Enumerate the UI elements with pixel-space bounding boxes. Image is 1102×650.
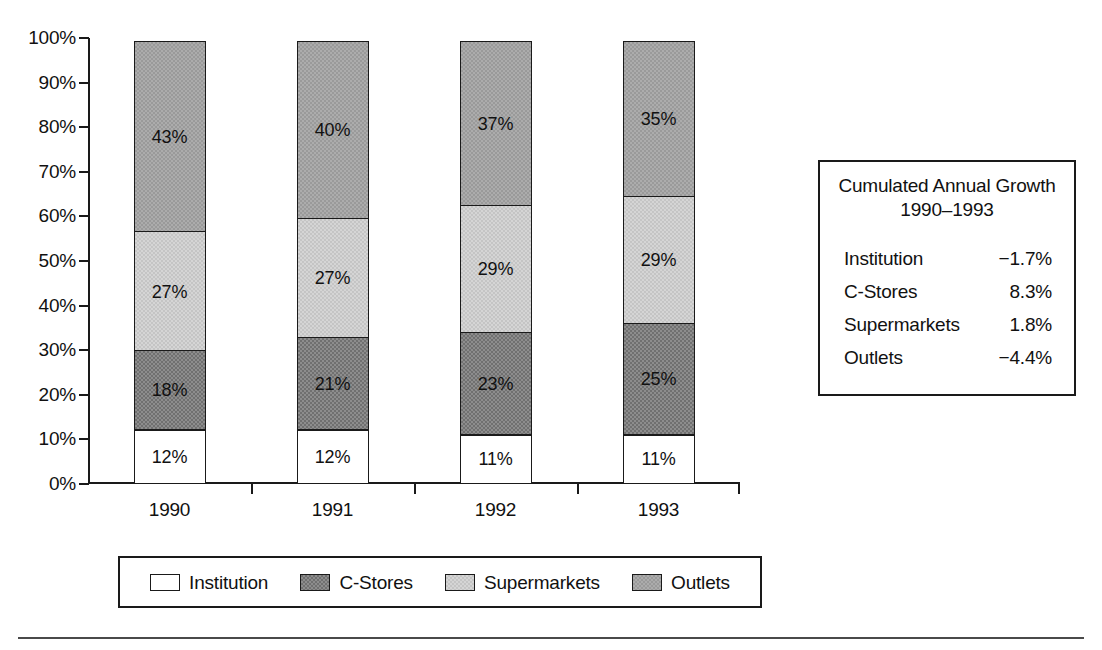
x-axis-label-1993: 1993 bbox=[577, 500, 740, 519]
y-axis-tick-label: 70% bbox=[14, 162, 76, 181]
growth-row-value: −1.7% bbox=[999, 242, 1052, 275]
bar-segment-label: 43% bbox=[152, 128, 187, 146]
y-axis-tick bbox=[79, 260, 89, 262]
bar-segment-label: 27% bbox=[315, 269, 350, 287]
y-axis-tick bbox=[79, 438, 89, 440]
legend-item-label: Institution bbox=[189, 573, 268, 592]
growth-table-title-line1: Cumulated Annual Growth bbox=[820, 174, 1074, 198]
y-axis-tick bbox=[79, 394, 89, 396]
y-axis-tick-label: 90% bbox=[14, 73, 76, 92]
y-axis-tick bbox=[79, 126, 89, 128]
bar-segment-label: 29% bbox=[478, 260, 513, 278]
bar-segment[interactable]: 27% bbox=[297, 218, 369, 338]
legend-item-label: Outlets bbox=[671, 573, 730, 592]
bar-segment-label: 27% bbox=[152, 283, 187, 301]
growth-table-title-line2: 1990–1993 bbox=[820, 198, 1074, 222]
y-axis-tick-label: 60% bbox=[14, 206, 76, 225]
plot-area: 0%10%20%30%40%50%60%70%80%90%100% 43%27%… bbox=[88, 38, 740, 484]
bar-1991[interactable]: 40%27%21%12% bbox=[297, 43, 369, 484]
growth-table-rows: Institution−1.7%C-Stores8.3%Supermarkets… bbox=[820, 242, 1074, 374]
bar-segment[interactable]: 25% bbox=[623, 323, 695, 435]
x-axis-tick bbox=[414, 484, 416, 494]
bar-segment[interactable]: 11% bbox=[623, 435, 695, 484]
bar-segment-label: 11% bbox=[478, 450, 512, 468]
bar-segment-label: 21% bbox=[315, 375, 350, 393]
bar-1990[interactable]: 43%27%18%12% bbox=[134, 43, 206, 484]
bar-segment[interactable]: 43% bbox=[134, 41, 206, 233]
legend-swatch-icon bbox=[632, 574, 662, 591]
y-axis-tick-label: 0% bbox=[14, 474, 76, 493]
bar-segment-label: 37% bbox=[478, 115, 513, 133]
bar-segment-label: 11% bbox=[641, 450, 675, 468]
y-axis-tick bbox=[79, 305, 89, 307]
bar-segment[interactable]: 23% bbox=[460, 332, 532, 435]
bar-segment-label: 40% bbox=[315, 121, 350, 139]
bar-segment[interactable]: 11% bbox=[460, 435, 532, 484]
growth-row-value: 1.8% bbox=[1009, 308, 1052, 341]
legend-item-label: C-Stores bbox=[339, 573, 412, 592]
bar-segment[interactable]: 18% bbox=[134, 350, 206, 430]
growth-table-row: Institution−1.7% bbox=[844, 242, 1052, 275]
growth-table-row: C-Stores8.3% bbox=[844, 275, 1052, 308]
bar-segment[interactable]: 12% bbox=[134, 430, 206, 484]
growth-table-title: Cumulated Annual Growth 1990–1993 bbox=[820, 174, 1074, 222]
legend-item-institution[interactable]: Institution bbox=[150, 573, 268, 592]
bar-1992[interactable]: 37%29%23%11% bbox=[460, 43, 532, 484]
bar-segment[interactable]: 27% bbox=[134, 231, 206, 351]
legend-item-label: Supermarkets bbox=[484, 573, 600, 592]
x-axis-tick bbox=[577, 484, 579, 494]
bar-segment[interactable]: 29% bbox=[623, 196, 695, 325]
bar-segment-label: 23% bbox=[478, 375, 513, 393]
y-axis-tick-label: 30% bbox=[14, 340, 76, 359]
growth-row-label: C-Stores bbox=[844, 275, 917, 308]
y-axis-tick-label: 10% bbox=[14, 429, 76, 448]
growth-row-label: Supermarkets bbox=[844, 308, 960, 341]
bottom-divider bbox=[18, 637, 1084, 639]
bar-segment-label: 12% bbox=[152, 448, 187, 466]
bar-segment-label: 29% bbox=[641, 251, 676, 269]
growth-row-label: Outlets bbox=[844, 341, 903, 374]
y-axis-tick-label: 50% bbox=[14, 251, 76, 270]
bar-segment-label: 18% bbox=[152, 381, 187, 399]
legend-swatch-icon bbox=[300, 574, 330, 591]
y-axis-tick-label: 40% bbox=[14, 296, 76, 315]
legend-item-outlets[interactable]: Outlets bbox=[632, 573, 730, 592]
bar-segment-label: 25% bbox=[641, 370, 676, 388]
y-axis-tick bbox=[79, 82, 89, 84]
growth-row-value: −4.4% bbox=[999, 341, 1052, 374]
bar-segment[interactable]: 35% bbox=[623, 41, 695, 197]
x-axis-label-1992: 1992 bbox=[414, 500, 577, 519]
legend-item-supermarkets[interactable]: Supermarkets bbox=[445, 573, 600, 592]
bar-segment-label: 12% bbox=[315, 448, 350, 466]
y-axis-tick bbox=[79, 171, 89, 173]
bar-1993[interactable]: 35%29%25%11% bbox=[623, 43, 695, 484]
legend-swatch-icon bbox=[445, 574, 475, 591]
y-axis-tick bbox=[79, 349, 89, 351]
growth-row-label: Institution bbox=[844, 242, 923, 275]
bar-segment-label: 35% bbox=[641, 110, 676, 128]
y-axis-tick-label: 20% bbox=[14, 385, 76, 404]
growth-row-value: 8.3% bbox=[1009, 275, 1052, 308]
x-axis-label-1990: 1990 bbox=[88, 500, 251, 519]
growth-table-row: Outlets−4.4% bbox=[844, 341, 1052, 374]
bar-segment[interactable]: 12% bbox=[297, 430, 369, 484]
y-axis-tick-label: 80% bbox=[14, 117, 76, 136]
x-axis-tick bbox=[738, 484, 740, 494]
legend-item-cstores[interactable]: C-Stores bbox=[300, 573, 412, 592]
y-axis-tick-label: 100% bbox=[14, 28, 76, 47]
chart-legend: InstitutionC-StoresSupermarketsOutlets bbox=[118, 556, 762, 608]
chart-figure: 0%10%20%30%40%50%60%70%80%90%100% 43%27%… bbox=[0, 0, 1102, 650]
x-axis-tick bbox=[251, 484, 253, 494]
bar-segment[interactable]: 29% bbox=[460, 205, 532, 334]
x-axis-label-1991: 1991 bbox=[251, 500, 414, 519]
bar-segment[interactable]: 21% bbox=[297, 337, 369, 431]
legend-swatch-icon bbox=[150, 574, 180, 591]
bar-segment[interactable]: 40% bbox=[297, 41, 369, 219]
y-axis-tick bbox=[79, 215, 89, 217]
growth-table: Cumulated Annual Growth 1990–1993 Instit… bbox=[818, 160, 1076, 396]
growth-table-row: Supermarkets1.8% bbox=[844, 308, 1052, 341]
y-axis-tick bbox=[79, 37, 89, 39]
y-axis-tick bbox=[79, 483, 89, 485]
bar-segment[interactable]: 37% bbox=[460, 41, 532, 206]
